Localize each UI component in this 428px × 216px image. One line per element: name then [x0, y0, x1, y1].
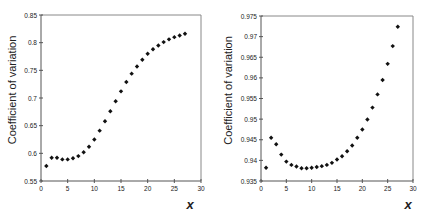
data-point: [284, 159, 288, 163]
data-point: [370, 105, 374, 109]
data-point: [119, 89, 123, 93]
data-point: [177, 33, 181, 37]
data-point: [49, 156, 53, 160]
y-tick-label: 0.945: [241, 136, 258, 143]
data-point: [365, 117, 369, 121]
data-point: [60, 157, 64, 161]
data-point: [391, 44, 395, 48]
x-tick-label: 15: [117, 185, 125, 192]
y-tick-label: 0.95: [244, 116, 257, 123]
x-tick-label: 5: [66, 185, 70, 192]
data-point: [269, 135, 273, 139]
data-point: [108, 109, 112, 113]
data-point: [172, 35, 176, 39]
data-point: [161, 40, 165, 44]
data-point: [264, 166, 268, 170]
data-point: [92, 137, 96, 141]
y-tick-label: 0.975: [241, 13, 258, 20]
data-point: [97, 128, 101, 132]
data-point: [124, 80, 128, 84]
x-tick-label: 20: [144, 185, 152, 192]
data-point: [330, 161, 334, 165]
data-point: [71, 156, 75, 160]
left-chart: 0.550.60.650.70.750.80.85051015202530Coe…: [0, 0, 214, 216]
data-point: [55, 156, 59, 160]
x-tick-label: 30: [409, 185, 417, 192]
data-point: [289, 163, 293, 167]
x-tick-label: 25: [171, 185, 179, 192]
x-axis-label: x: [403, 197, 412, 212]
y-axis-label: Coefficient of variation: [6, 36, 18, 145]
data-point: [65, 157, 69, 161]
data-point: [81, 150, 85, 154]
left-chart-plot: 0.550.60.650.70.750.80.85051015202530Coe…: [0, 0, 214, 216]
data-point: [294, 164, 298, 168]
y-tick-label: 0.8: [28, 39, 37, 46]
data-point: [135, 64, 139, 68]
data-point: [385, 62, 389, 66]
y-tick-label: 0.75: [24, 67, 37, 74]
x-tick-label: 30: [197, 185, 205, 192]
data-point: [396, 25, 400, 29]
y-tick-label: 0.96: [244, 74, 257, 81]
data-point: [340, 154, 344, 158]
x-tick-label: 15: [333, 185, 341, 192]
x-tick-label: 0: [39, 185, 43, 192]
y-tick-label: 0.7: [28, 95, 37, 102]
data-point: [299, 166, 303, 170]
x-tick-label: 25: [384, 185, 392, 192]
data-point: [140, 58, 144, 62]
y-tick-label: 0.935: [241, 178, 258, 185]
data-point: [274, 142, 278, 146]
data-point: [350, 143, 354, 147]
data-point: [129, 71, 133, 75]
x-tick-label: 20: [359, 185, 367, 192]
y-tick-label: 0.965: [241, 54, 258, 61]
y-tick-label: 0.97: [244, 33, 257, 40]
data-point: [304, 166, 308, 170]
data-point: [315, 165, 319, 169]
x-tick-label: 0: [259, 185, 263, 192]
y-tick-label: 0.6: [28, 150, 37, 157]
x-axis-label: x: [185, 197, 194, 212]
data-point: [44, 164, 48, 168]
data-point: [156, 43, 160, 47]
x-tick-label: 5: [285, 185, 289, 192]
data-point: [76, 154, 80, 158]
data-point: [309, 166, 313, 170]
y-tick-label: 0.55: [24, 178, 37, 185]
right-chart: 0.9350.940.9450.950.9550.960.9650.970.97…: [214, 0, 428, 216]
data-point: [380, 78, 384, 82]
data-point: [145, 52, 149, 56]
data-point: [87, 144, 91, 148]
data-point: [345, 149, 349, 153]
y-tick-label: 0.955: [241, 95, 258, 102]
data-point: [325, 163, 329, 167]
data-point: [355, 135, 359, 139]
x-tick-label: 10: [91, 185, 99, 192]
y-axis-label: Coefficient of variation: [222, 36, 234, 145]
data-point: [113, 99, 117, 103]
data-point: [183, 32, 187, 36]
x-tick-label: 10: [308, 185, 316, 192]
data-point: [335, 157, 339, 161]
y-tick-label: 0.65: [24, 122, 37, 129]
data-point: [167, 37, 171, 41]
y-tick-label: 0.94: [244, 157, 257, 164]
data-point: [360, 127, 364, 131]
data-point: [151, 47, 155, 51]
data-point: [320, 164, 324, 168]
data-point: [103, 119, 107, 123]
data-point: [279, 152, 283, 156]
y-tick-label: 0.85: [24, 12, 37, 19]
right-chart-plot: 0.9350.940.9450.950.9550.960.9650.970.97…: [214, 0, 428, 216]
data-point: [375, 92, 379, 96]
